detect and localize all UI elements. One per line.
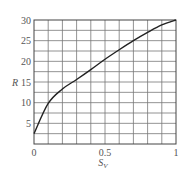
y-tick-label: 15 bbox=[21, 77, 31, 88]
y-tick-label: 30 bbox=[21, 15, 31, 26]
x-tick-label: 0 bbox=[32, 147, 37, 158]
y-tick-label: 20 bbox=[21, 56, 31, 67]
y-axis-label: R bbox=[11, 77, 18, 88]
grid-lines bbox=[34, 20, 176, 144]
chart: 51015202530 00.51 R SV bbox=[0, 0, 188, 176]
y-tick-label: 10 bbox=[21, 97, 31, 108]
x-axis-label-sub: V bbox=[103, 162, 108, 170]
y-tick-label: 5 bbox=[26, 118, 31, 129]
x-tick-labels: 00.51 bbox=[32, 147, 179, 158]
y-tick-label: 25 bbox=[21, 35, 31, 46]
x-tick-label: 1 bbox=[174, 147, 179, 158]
y-tick-labels: 51015202530 bbox=[21, 15, 31, 129]
x-axis-label: SV bbox=[98, 157, 108, 170]
